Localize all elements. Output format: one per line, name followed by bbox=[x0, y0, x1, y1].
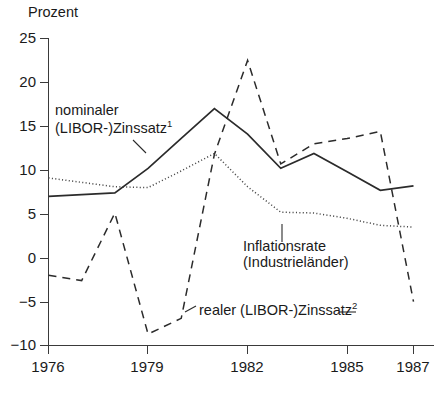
y-tick-label-5: 5 bbox=[4, 205, 36, 222]
annotation-inflation-line1: Inflationsrate bbox=[243, 238, 326, 254]
y-tick-label-minus5: −5 bbox=[0, 293, 36, 310]
chart-plot-area bbox=[0, 0, 442, 396]
y-tick-label-minus10: −10 bbox=[0, 336, 36, 353]
x-tick-label-1976: 1976 bbox=[31, 358, 64, 375]
annotation-real-line1: realer (LIBOR-)Zinssatz bbox=[199, 302, 352, 318]
annotation-real-footnote-marker: 2 bbox=[352, 300, 357, 311]
y-tick-label-20: 20 bbox=[4, 73, 36, 90]
y-tick-label-15: 15 bbox=[4, 117, 36, 134]
annotation-inflation-rate: Inflationsrate (Industrieländer) bbox=[243, 238, 349, 270]
x-axis-ticks bbox=[49, 346, 414, 355]
annotation-nominal-line2: (LIBOR-)Zinssatz bbox=[55, 120, 167, 136]
leader-line-nominal bbox=[133, 140, 146, 153]
y-tick-label-10: 10 bbox=[4, 161, 36, 178]
annotation-nominal-line2-wrap: (LIBOR-)Zinssatz1 bbox=[55, 118, 172, 136]
series-inflation-rate bbox=[49, 153, 414, 227]
annotation-nominal-rate: nominaler (LIBOR-)Zinssatz1 bbox=[55, 102, 172, 136]
x-tick-label-1982: 1982 bbox=[230, 358, 263, 375]
annotation-inflation-line2: (Industrieländer) bbox=[243, 254, 349, 270]
annotation-real-rate: realer (LIBOR-)Zinssatz2 bbox=[199, 300, 357, 318]
x-tick-label-1985: 1985 bbox=[330, 358, 363, 375]
y-tick-label-25: 25 bbox=[4, 29, 36, 46]
annotation-nominal-footnote-marker: 1 bbox=[167, 118, 172, 129]
y-axis-ticks bbox=[40, 39, 49, 346]
x-tick-label-1987: 1987 bbox=[396, 358, 429, 375]
y-tick-label-0: 0 bbox=[4, 249, 36, 266]
chart-container: Prozent bbox=[0, 0, 442, 396]
x-tick-label-1979: 1979 bbox=[130, 358, 163, 375]
leader-line-real bbox=[185, 306, 196, 312]
annotation-nominal-line1: nominaler bbox=[55, 102, 119, 118]
